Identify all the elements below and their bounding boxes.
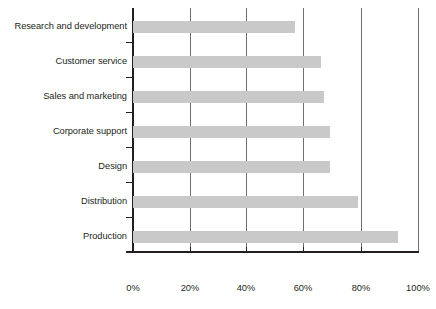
category-label-corporate-support: Corporate support [53, 126, 127, 136]
bar [133, 56, 321, 68]
category-label-design: Design [98, 161, 127, 171]
bar [133, 231, 398, 243]
gridline-80 [361, 8, 362, 252]
y-axis-tick [126, 42, 133, 43]
category-label-distribution: Distribution [81, 196, 127, 206]
x-axis-tick [246, 247, 247, 252]
x-tick-label-60: 60% [294, 283, 313, 293]
y-axis-tick [126, 182, 133, 183]
x-tick-label-0: 0% [126, 283, 139, 293]
x-axis-line [126, 251, 419, 253]
bar [133, 21, 295, 33]
bar [133, 91, 324, 103]
x-axis-tick [361, 247, 362, 252]
bar [133, 126, 330, 138]
x-tick-label-20: 20% [181, 283, 200, 293]
category-label-research-and-development: Research and development [14, 21, 127, 31]
bar-chart: Research and development Customer servic… [0, 0, 436, 309]
x-tick-label-80: 80% [352, 283, 371, 293]
y-axis-tick [126, 77, 133, 78]
category-label-production: Production [83, 231, 127, 241]
x-tick-label-100: 100% [406, 283, 430, 293]
bar [133, 161, 330, 173]
y-axis-tick [126, 147, 133, 148]
bar [133, 196, 358, 208]
x-tick-label-40: 40% [237, 283, 256, 293]
gridline-100 [418, 8, 419, 252]
x-axis-tick [190, 247, 191, 252]
y-axis-tick [126, 112, 133, 113]
x-axis-tick [133, 247, 134, 252]
x-axis-tick [303, 247, 304, 252]
y-axis-tick [126, 217, 133, 218]
category-label-sales-and-marketing: Sales and marketing [43, 91, 127, 101]
category-label-customer-service: Customer service [55, 56, 127, 66]
